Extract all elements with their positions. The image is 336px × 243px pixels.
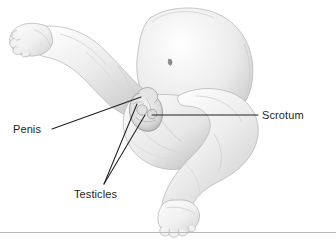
figure-container: Penis Scrotum Testicles — [0, 0, 336, 243]
callout-label-testicles: Testicles — [74, 188, 117, 200]
testicle-right — [147, 109, 157, 119]
callout-label-scrotum: Scrotum — [262, 109, 304, 121]
testicle-left — [137, 105, 147, 115]
anatomy-illustration: Penis Scrotum Testicles — [0, 0, 336, 243]
lower-right-foot — [158, 200, 200, 237]
callout-label-penis: Penis — [13, 123, 41, 135]
upper-left-foot — [10, 23, 53, 57]
